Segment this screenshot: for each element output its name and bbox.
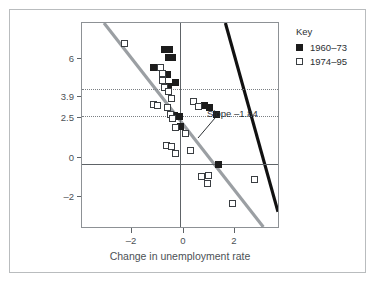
data-point: [176, 113, 183, 120]
data-point: [172, 79, 179, 86]
data-point: [205, 172, 212, 179]
data-point: [169, 54, 176, 61]
y-tick-label-minus2: –2: [63, 191, 74, 202]
legend-title: Key: [296, 26, 347, 37]
y-tick-label-2_5: 2.5: [61, 112, 74, 123]
data-point: [187, 147, 194, 154]
y-tick-label-3_9: 3.9: [61, 91, 74, 102]
legend-item-1960-73[interactable]: 1960–73: [296, 42, 347, 53]
x-tick-mark-minus2: [131, 228, 132, 233]
x-tick-label-minus2: –2: [126, 235, 137, 246]
y-tick-label-0: 0: [69, 152, 74, 163]
data-point: [168, 143, 175, 150]
legend-label-1960-73: 1960–73: [310, 42, 347, 53]
data-point: [121, 40, 128, 47]
data-point: [204, 180, 211, 187]
data-point: [172, 150, 179, 157]
data-point: [215, 161, 222, 168]
data-point: [172, 124, 179, 131]
legend-label-1974-95: 1974–95: [310, 56, 347, 67]
data-point: [169, 115, 176, 122]
x-tick-mark-0: [183, 228, 184, 233]
open-square-icon: [296, 58, 303, 65]
filled-square-icon: [296, 44, 303, 51]
data-point: [164, 104, 171, 111]
data-point: [198, 173, 205, 180]
data-point: [182, 130, 189, 137]
data-point: [229, 200, 236, 207]
slope-leader-line: [196, 117, 216, 139]
data-point: [154, 102, 161, 109]
legend-item-1974-95[interactable]: 1974–95: [296, 56, 347, 67]
data-point: [195, 103, 202, 110]
x-tick-label-2: 2: [231, 235, 236, 246]
plot-area: [81, 22, 279, 228]
x-tick-label-0: 0: [180, 235, 185, 246]
legend: Key 1960–73 1974–95: [296, 26, 347, 70]
data-point: [251, 176, 258, 183]
x-axis-title: Change in unemployment rate: [81, 250, 279, 262]
x-tick-mark-2: [234, 228, 235, 233]
data-point: [168, 95, 175, 102]
figure-container: GDP growth (in %) 6 3.9 2.5 0 –2 –2 0 2 …: [0, 0, 376, 283]
y-tick-label-6: 6: [69, 53, 74, 64]
data-point: [166, 46, 173, 53]
